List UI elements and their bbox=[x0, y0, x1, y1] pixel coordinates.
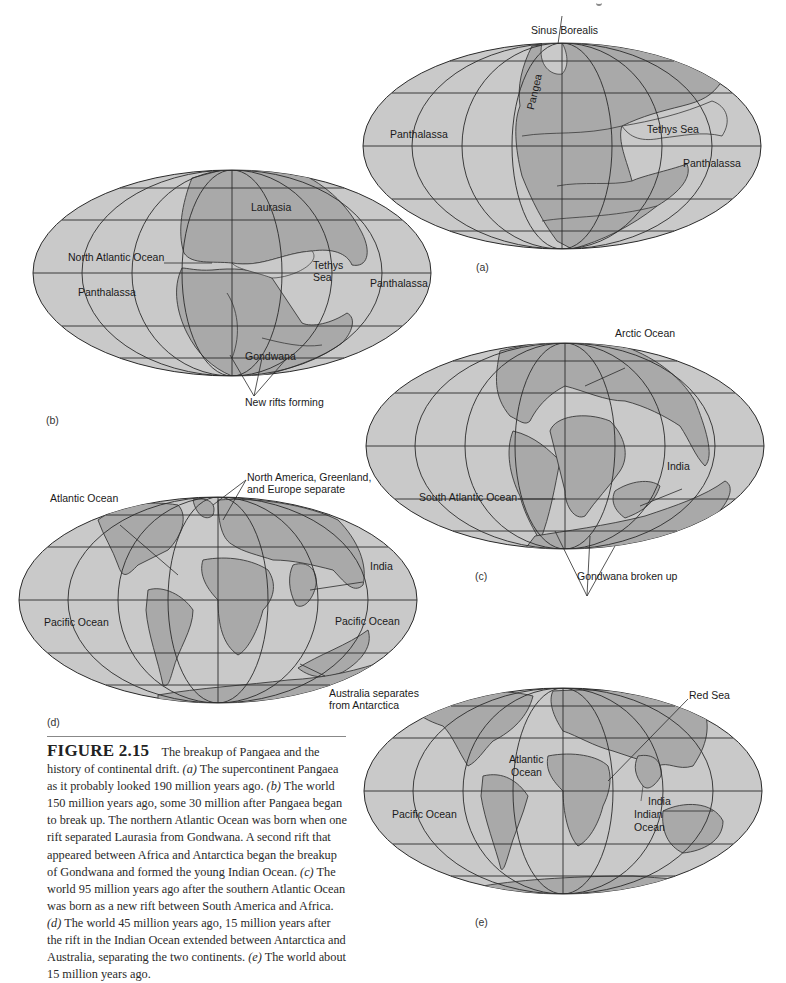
label-tethys-b-2: Sea bbox=[313, 271, 332, 283]
label-laurasia: Laurasia bbox=[251, 201, 291, 213]
label-panthalassa-east-a: Panthalassa bbox=[683, 157, 741, 169]
label-na-greenland-2: and Europe separate bbox=[247, 483, 345, 495]
label-north-atlantic: North Atlantic Ocean bbox=[68, 251, 164, 263]
label-india-d: India bbox=[370, 560, 393, 572]
label-panthalassa-west-b: Panthalassa bbox=[78, 286, 136, 298]
figure-caption: FIGURE 2.15 The breakup of Pangaea and t… bbox=[47, 742, 347, 983]
caption-tag-b: (b) bbox=[267, 779, 281, 793]
caption-tag-c: (c) bbox=[300, 865, 314, 879]
label-australia-2: from Antarctica bbox=[329, 699, 399, 711]
label-india-c: India bbox=[667, 460, 690, 472]
label-tethys-sea-a: Tethys Sea bbox=[647, 123, 699, 135]
map-c-globe bbox=[366, 343, 764, 596]
label-tethys-b-1: Tethys bbox=[313, 259, 343, 271]
label-atlantic-e-2: Ocean bbox=[511, 766, 542, 778]
label-arctic-ocean: Arctic Ocean bbox=[615, 327, 675, 339]
caption-tag-a: (a) bbox=[183, 762, 197, 776]
label-red-sea: Red Sea bbox=[689, 689, 730, 701]
label-pacific-e: Pacific Ocean bbox=[392, 808, 457, 820]
label-indian-e-1: Indian bbox=[634, 808, 663, 820]
panel-letter-e: (e) bbox=[475, 916, 488, 928]
label-australia-1: Australia separates bbox=[329, 687, 419, 699]
label-atlantic-ocean-d: Atlantic Ocean bbox=[50, 492, 118, 504]
label-na-greenland-1: North America, Greenland, bbox=[247, 471, 371, 483]
label-pacific-west-d: Pacific Ocean bbox=[44, 616, 109, 628]
label-pacific-east-d: Pacific Ocean bbox=[335, 615, 400, 627]
label-south-atlantic: South Atlantic Ocean bbox=[419, 491, 517, 503]
label-gondwana-broken: Gondwana broken up bbox=[577, 570, 677, 582]
caption-tag-e: (e) bbox=[248, 950, 262, 964]
figure-number: FIGURE 2.15 bbox=[47, 741, 149, 760]
label-panthalassa-east-b: Panthalassa bbox=[370, 277, 428, 289]
caption-rule bbox=[47, 736, 346, 737]
caption-tag-d: (d) bbox=[47, 916, 61, 930]
map-e-globe bbox=[364, 688, 762, 894]
panel-letter-d: (d) bbox=[47, 716, 60, 728]
label-panthalassa-west-a: Panthalassa bbox=[390, 128, 448, 140]
label-indian-e-2: Ocean bbox=[634, 821, 665, 833]
label-india-e: India bbox=[648, 795, 671, 807]
label-sinus-borealis: Sinus Borealis bbox=[531, 24, 598, 36]
label-new-rifts: New rifts forming bbox=[245, 396, 324, 408]
label-gondwana-b: Gondwana bbox=[245, 350, 296, 362]
panel-letter-c: (c) bbox=[475, 570, 487, 582]
panel-letter-b: (b) bbox=[46, 414, 59, 426]
panel-letter-a: (a) bbox=[476, 261, 489, 273]
label-atlantic-e-1: Atlantic bbox=[509, 753, 543, 765]
map-d-globe bbox=[19, 480, 417, 703]
